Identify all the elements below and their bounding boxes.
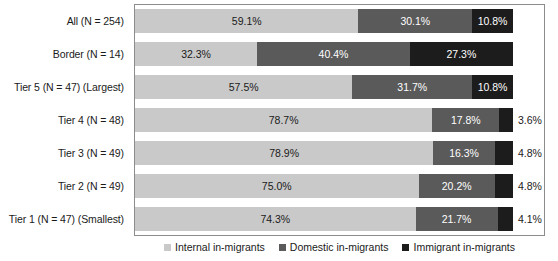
segment-value-label: 4.8% <box>518 180 542 192</box>
category-label: All (N = 254) <box>0 15 130 27</box>
segment-value-label: 75.0% <box>262 180 292 192</box>
bar-segment: 40.4% <box>257 42 410 66</box>
chart-row: Tier 5 (N = 47) (Largest)57.5%31.7%10.8% <box>0 73 558 100</box>
segment-value-label: 57.5% <box>229 81 259 93</box>
chart-legend: Internal in-migrantsDomestic in-migrants… <box>134 241 545 253</box>
segment-value-label: 27.3% <box>447 48 477 60</box>
segment-value-label: 4.1% <box>518 213 542 225</box>
bar-segment: 75.0% <box>135 174 419 198</box>
segment-value-label: 17.8% <box>451 114 481 126</box>
chart-row: Tier 3 (N = 49)78.9%16.3%4.8% <box>0 140 558 167</box>
bar-segment: 32.3% <box>135 42 257 66</box>
segment-value-label: 10.8% <box>478 15 508 27</box>
stacked-bar: 78.9%16.3%4.8% <box>135 141 513 165</box>
bar-segment: 4.1% <box>498 207 513 231</box>
bar-segment: 31.7% <box>352 75 472 99</box>
chart-row: Tier 2 (N = 49)75.0%20.2%4.8% <box>0 173 558 200</box>
bar-segment: 20.2% <box>419 174 495 198</box>
bar-segment: 74.3% <box>135 207 416 231</box>
stacked-bar: 59.1%30.1%10.8% <box>135 9 513 33</box>
bar-segment: 4.8% <box>495 174 513 198</box>
segment-value-label: 21.7% <box>442 213 472 225</box>
stacked-bar: 75.0%20.2%4.8% <box>135 174 513 198</box>
category-label: Tier 5 (N = 47) (Largest) <box>0 81 130 93</box>
segment-value-label: 30.1% <box>400 15 430 27</box>
bar-segment: 78.7% <box>135 108 432 132</box>
bar-segment: 59.1% <box>135 9 358 33</box>
stacked-bar: 78.7%17.8%3.6% <box>135 108 513 132</box>
legend-swatch-icon <box>279 244 286 251</box>
segment-value-label: 31.7% <box>397 81 427 93</box>
stacked-bar: 57.5%31.7%10.8% <box>135 75 513 99</box>
bar-segment: 78.9% <box>135 141 433 165</box>
legend-item[interactable]: Internal in-migrants <box>164 241 265 253</box>
segment-value-label: 10.8% <box>478 81 508 93</box>
category-label: Tier 4 (N = 48) <box>0 114 130 126</box>
bar-segment: 30.1% <box>358 9 472 33</box>
stacked-bar: 32.3%40.4%27.3% <box>135 42 513 66</box>
bar-segment: 27.3% <box>410 42 513 66</box>
bar-segment: 4.8% <box>495 141 513 165</box>
bar-segment: 57.5% <box>135 75 352 99</box>
bar-segment: 16.3% <box>433 141 495 165</box>
segment-value-label: 3.6% <box>518 114 542 126</box>
legend-label: Internal in-migrants <box>175 241 265 253</box>
category-label: Tier 3 (N = 49) <box>0 147 130 159</box>
segment-value-label: 78.7% <box>269 114 299 126</box>
bar-segment: 21.7% <box>416 207 498 231</box>
bar-rows-container: All (N = 254)59.1%30.1%10.8%Border (N = … <box>0 4 558 236</box>
chart-row: Border (N = 14)32.3%40.4%27.3% <box>0 40 558 67</box>
legend-swatch-icon <box>402 244 409 251</box>
bar-segment: 17.8% <box>432 108 499 132</box>
bar-segment: 10.8% <box>472 9 513 33</box>
chart-row: All (N = 254)59.1%30.1%10.8% <box>0 7 558 34</box>
legend-item[interactable]: Immigrant in-migrants <box>402 241 515 253</box>
legend-swatch-icon <box>164 244 171 251</box>
legend-label: Immigrant in-migrants <box>413 241 515 253</box>
segment-value-label: 78.9% <box>269 147 299 159</box>
segment-value-label: 32.3% <box>181 48 211 60</box>
segment-value-label: 20.2% <box>442 180 472 192</box>
category-label: Tier 2 (N = 49) <box>0 180 130 192</box>
stacked-bar: 74.3%21.7%4.1% <box>135 207 513 231</box>
legend-item[interactable]: Domestic in-migrants <box>279 241 389 253</box>
chart-row: Tier 4 (N = 48)78.7%17.8%3.6% <box>0 106 558 133</box>
segment-value-label: 16.3% <box>449 147 479 159</box>
chart-row: Tier 1 (N = 47) (Smallest)74.3%21.7%4.1% <box>0 206 558 233</box>
category-label: Border (N = 14) <box>0 48 130 60</box>
segment-value-label: 59.1% <box>232 15 262 27</box>
category-label: Tier 1 (N = 47) (Smallest) <box>0 213 130 225</box>
bar-segment: 10.8% <box>472 75 513 99</box>
legend-label: Domestic in-migrants <box>290 241 389 253</box>
segment-value-label: 74.3% <box>260 213 290 225</box>
segment-value-label: 4.8% <box>518 147 542 159</box>
stacked-bar-chart: All (N = 254)59.1%30.1%10.8%Border (N = … <box>0 0 558 261</box>
bar-segment: 3.6% <box>499 108 513 132</box>
segment-value-label: 40.4% <box>319 48 349 60</box>
